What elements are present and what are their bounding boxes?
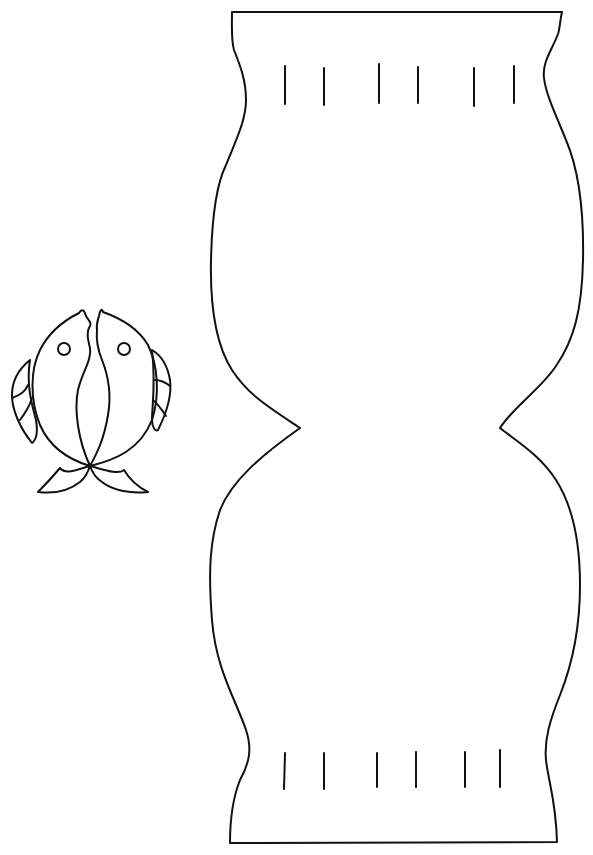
bottom-slits bbox=[284, 750, 500, 789]
vase-shape bbox=[210, 12, 583, 843]
fish-pair bbox=[12, 310, 171, 493]
craft-template bbox=[0, 0, 593, 855]
left-fish-eye-icon bbox=[58, 343, 70, 355]
top-slits bbox=[285, 64, 514, 106]
right-fish-eye-icon bbox=[118, 343, 130, 355]
